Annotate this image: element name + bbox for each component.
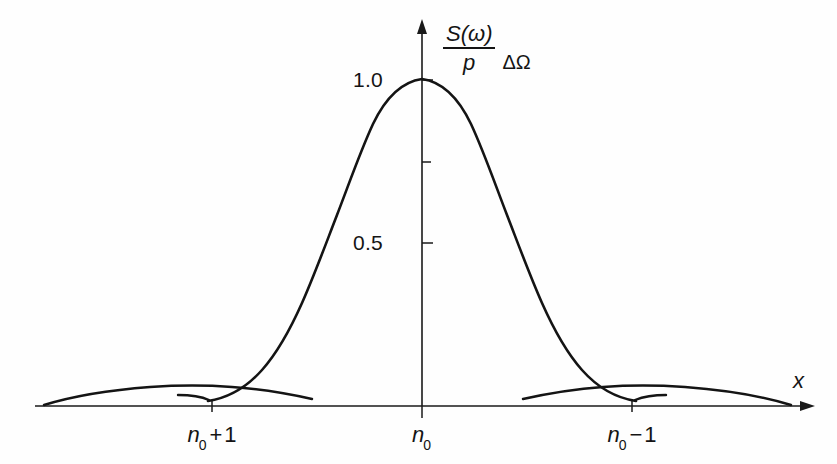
y-tick-label-0.5: 0.5 bbox=[353, 232, 383, 253]
x-tick-label-subscript: 0 bbox=[199, 437, 207, 453]
plot-canvas bbox=[0, 0, 837, 464]
x-axis-arrowhead bbox=[800, 401, 815, 411]
y-axis-label-suffix: ΔΩ bbox=[502, 52, 530, 74]
y-axis-fraction: S(ω) p bbox=[443, 23, 495, 74]
x-tick-label-n0-minus-1: n0−1 bbox=[607, 424, 656, 449]
x-tick-label-n0-plus-1: n0+1 bbox=[187, 424, 236, 449]
y-axis-numerator: S(ω) bbox=[443, 23, 495, 47]
x-tick-label-operator: − bbox=[627, 422, 644, 447]
x-tick-label-subscript: 0 bbox=[423, 437, 431, 453]
x-tick-label-operator: + bbox=[207, 422, 224, 447]
y-axis-denominator: p bbox=[460, 49, 478, 74]
y-axis-arrowhead bbox=[417, 19, 427, 34]
spectral-density-figure: S(ω) p ΔΩ 1.0 0.5 n0+1 n0 n0−1 x bbox=[0, 0, 837, 464]
x-tick-label-n0: n0 bbox=[412, 424, 432, 449]
y-axis-label: S(ω) p ΔΩ bbox=[443, 23, 531, 74]
x-tick-label-subscript: 0 bbox=[619, 437, 627, 453]
y-tick-label-1.0: 1.0 bbox=[353, 69, 383, 90]
curve-main-tail-left bbox=[178, 395, 209, 400]
x-axis-name: x bbox=[793, 370, 804, 392]
x-tick-label-number: 1 bbox=[644, 422, 656, 447]
curve-main-tail-right bbox=[635, 395, 666, 400]
x-tick-label-number: 1 bbox=[224, 422, 236, 447]
